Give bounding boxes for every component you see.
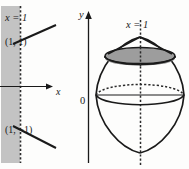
right-panel-group: y 0 x = 1 xyxy=(78,9,184,166)
label-x-equals-one-right: x = 1 xyxy=(125,19,148,30)
y-axis-arrowhead xyxy=(85,11,92,19)
left-panel-group: x = 1 (1, 1) (1, −1) x xyxy=(0,6,61,163)
x-axis-arrowhead xyxy=(46,83,53,89)
figure-svg: x = 1 (1, 1) (1, −1) x y 0 x = 1 xyxy=(0,0,189,169)
label-point-1-minus-1: (1, −1) xyxy=(5,124,32,136)
label-x-equals-one-left: x = 1 xyxy=(4,12,27,23)
label-origin: 0 xyxy=(80,95,85,106)
shaded-region-strip xyxy=(1,6,20,163)
label-x-axis: x xyxy=(55,86,61,97)
label-y-axis: y xyxy=(78,9,84,20)
math-figure-container: x = 1 (1, 1) (1, −1) x y 0 x = 1 xyxy=(0,0,189,169)
label-point-1-1: (1, 1) xyxy=(5,36,27,48)
